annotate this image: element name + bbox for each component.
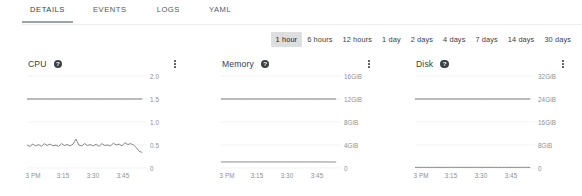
y-axis-tick: 0	[150, 165, 154, 172]
time-range-option-12-hours[interactable]: 12 hours	[338, 32, 378, 47]
time-range-option-6-hours[interactable]: 6 hours	[302, 32, 337, 47]
x-axis-tick: 3:30	[281, 172, 294, 179]
kebab-menu-icon[interactable]	[558, 56, 568, 72]
y-axis-tick: 24GiB	[538, 96, 556, 103]
time-range-selector: 1 hour6 hours12 hours1 day2 days4 days7 …	[271, 32, 576, 47]
tab-yaml[interactable]: YAML	[207, 0, 233, 23]
y-axis-tick: 0	[344, 165, 348, 172]
y-axis-tick: 32GiB	[538, 73, 556, 80]
x-axis-tick: 3:30	[87, 172, 100, 179]
card-title: Memory	[222, 59, 254, 69]
x-axis-tick: 3:45	[117, 172, 130, 179]
time-range-option-7-days[interactable]: 7 days	[470, 32, 502, 47]
tab-logs[interactable]: LOGS	[155, 0, 182, 23]
x-axis-tick: 3:15	[251, 172, 264, 179]
y-axis-tick: 1.5	[150, 96, 159, 103]
y-axis-tick: 0	[538, 165, 542, 172]
y-axis-tick: 4GiB	[344, 142, 358, 149]
y-axis-tick: 8GiB	[344, 119, 358, 126]
y-axis-tick: 8GiB	[538, 142, 552, 149]
series-usage	[27, 139, 142, 152]
x-axis-tick: 3 PM	[25, 172, 40, 179]
y-axis-labels: 32GiB24GiB16GiB8GiB0	[538, 76, 578, 168]
card-header: CPU?	[28, 57, 184, 71]
tab-events[interactable]: EVENTS	[91, 0, 129, 23]
x-axis-labels: 3 PM3:153:303:45	[415, 172, 535, 184]
y-axis-tick: 16GiB	[538, 119, 556, 126]
metric-card-memory: Memory?16GiB12GiB8GiB4GiB03 PM3:153:303:…	[194, 52, 388, 196]
y-axis-tick: 12GiB	[344, 96, 362, 103]
card-header: Disk?	[416, 57, 572, 71]
time-range-option-1-day[interactable]: 1 day	[377, 32, 406, 47]
help-circle-icon[interactable]: ?	[261, 60, 270, 69]
x-axis-tick: 3:45	[311, 172, 324, 179]
tab-details[interactable]: DETAILS	[28, 0, 67, 23]
x-axis-tick: 3:15	[57, 172, 70, 179]
y-axis-tick: 2.0	[150, 73, 159, 80]
tab-bar-divider	[22, 24, 582, 25]
help-circle-icon[interactable]: ?	[54, 60, 63, 69]
plot-area[interactable]	[221, 76, 341, 168]
plot-area[interactable]	[415, 76, 535, 168]
y-axis-tick: 0.5	[150, 142, 159, 149]
time-range-option-1-hour[interactable]: 1 hour	[271, 32, 303, 47]
x-axis-labels: 3 PM3:153:303:45	[221, 172, 341, 184]
y-axis-tick: 1.0	[150, 119, 159, 126]
card-header: Memory?	[222, 57, 378, 71]
card-title: CPU	[28, 59, 47, 69]
tab-bar: DETAILS EVENTS LOGS YAML	[0, 0, 582, 30]
help-circle-icon[interactable]: ?	[440, 60, 449, 69]
x-axis-tick: 3 PM	[413, 172, 428, 179]
card-title: Disk	[416, 59, 433, 69]
time-range-option-14-days[interactable]: 14 days	[503, 32, 540, 47]
chart-row: CPU?2.01.51.00.503 PM3:153:303:45Memory?…	[0, 52, 582, 196]
x-axis-tick: 3:30	[475, 172, 488, 179]
x-axis-tick: 3:15	[445, 172, 458, 179]
x-axis-labels: 3 PM3:153:303:45	[27, 172, 147, 184]
kebab-menu-icon[interactable]	[364, 56, 374, 72]
metrics-panel: DETAILS EVENTS LOGS YAML 1 hour6 hours12…	[0, 0, 582, 196]
kebab-menu-icon[interactable]	[170, 56, 180, 72]
metric-card-disk: Disk?32GiB24GiB16GiB8GiB03 PM3:153:303:4…	[388, 52, 582, 196]
plot-area[interactable]	[27, 76, 147, 168]
time-range-option-30-days[interactable]: 30 days	[539, 32, 576, 47]
x-axis-tick: 3:45	[505, 172, 518, 179]
x-axis-tick: 3 PM	[219, 172, 234, 179]
metric-card-cpu: CPU?2.01.51.00.503 PM3:153:303:45	[0, 52, 194, 196]
y-axis-labels: 2.01.51.00.50	[150, 76, 190, 168]
y-axis-tick: 16GiB	[344, 73, 362, 80]
time-range-option-4-days[interactable]: 4 days	[438, 32, 470, 47]
y-axis-labels: 16GiB12GiB8GiB4GiB0	[344, 76, 384, 168]
time-range-option-2-days[interactable]: 2 days	[406, 32, 438, 47]
